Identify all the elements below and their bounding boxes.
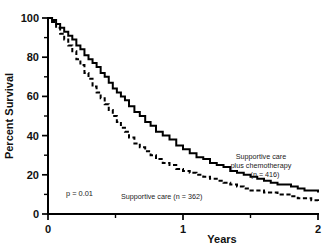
y-tick-label: 100: [21, 12, 39, 24]
chemotherapy-curve-label-line2: plus chemotherapy: [231, 161, 292, 170]
x-tick-label: 0: [45, 223, 51, 235]
supportive-care-curve-label: Supportive care (n = 362): [121, 192, 202, 201]
y-tick-label: 20: [27, 169, 39, 181]
y-tick-label: 80: [27, 51, 39, 63]
y-axis-tick-labels: 020406080100: [21, 12, 39, 220]
survival-chart-figure: 020406080100 012 Percent Survival Years …: [0, 0, 330, 249]
x-tick-label: 1: [180, 223, 186, 235]
p-value-annotation: p = 0.01: [66, 189, 93, 198]
kaplan-meier-plot: 020406080100 012 Percent Survival Years …: [0, 0, 330, 249]
chemotherapy-curve-label-line3: (n = 416): [251, 170, 280, 179]
y-tick-label: 60: [27, 90, 39, 102]
x-axis-tick-labels: 012: [45, 223, 321, 235]
chemotherapy-curve-label-line1: Supportive care: [236, 152, 286, 161]
y-axis-title: Percent Survival: [3, 73, 15, 159]
x-tick-label: 2: [315, 223, 321, 235]
y-tick-label: 0: [33, 208, 39, 220]
x-axis-title: Years: [207, 233, 236, 245]
y-tick-label: 40: [27, 130, 39, 142]
